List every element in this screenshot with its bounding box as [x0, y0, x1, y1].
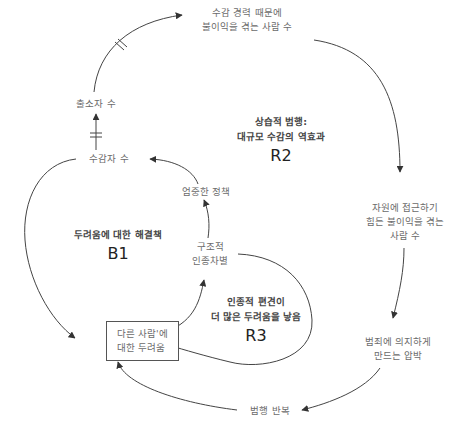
link-racism-to-policy: [204, 200, 209, 238]
loop-title: 대규모 수감의 역효과: [237, 129, 325, 144]
node-label: 사람 수: [366, 229, 444, 243]
node-label: 수감 경력 때문에: [202, 6, 292, 20]
link-released-to-disadvantaged: [94, 15, 182, 92]
loop-label-r2: 상습적 범행: 대규모 수감의 역효과 R2: [237, 114, 325, 167]
node-repeat-offense: 범행 반복: [250, 404, 289, 418]
loop-label-b1: 두려움에 대한 해결책 B1: [74, 227, 162, 265]
node-incarcerated-disadvantaged: 수감 경력 때문에 불이익을 겪는 사람 수: [202, 6, 292, 34]
node-label: 출소자 수: [76, 97, 115, 111]
link-incarcerated-to-fear: [25, 159, 76, 338]
node-label: 인종차별: [192, 254, 228, 268]
node-label: 불이익을 겪는 사람 수: [202, 20, 292, 34]
node-resource-access: 자원에 접근하기 힘든 불이익을 겪는 사람 수: [366, 201, 444, 243]
node-strict-policy: 엄중한 정책: [182, 185, 230, 199]
node-label: 수감자 수: [89, 152, 128, 166]
loop-code: R3: [211, 325, 302, 347]
link-policy-to-incarcerated: [150, 159, 198, 184]
node-label: 대한 두려움: [117, 341, 168, 355]
node-label: 범죄에 의지하게: [365, 335, 431, 349]
loop-title: 더 많은 두려움을 낳음: [211, 309, 302, 324]
link-pressure-to-repeat: [302, 368, 380, 410]
loop-title: 인종적 편견이: [211, 294, 302, 309]
node-released: 출소자 수: [76, 97, 115, 111]
node-label: 힘든 불이익을 겪는: [366, 215, 444, 229]
loop-code: B1: [74, 243, 162, 265]
node-label: 엄중한 정책: [182, 185, 230, 199]
node-structural-racism: 구조적 인종차별: [192, 240, 228, 268]
node-label: 다른 사람'에: [117, 327, 168, 341]
node-label: 자원에 접근하기: [366, 201, 444, 215]
node-label: 만드는 압박: [365, 349, 431, 363]
causal-loop-diagram: 수감 경력 때문에 불이익을 겪는 사람 수 출소자 수 수감자 수 엄중한 정…: [0, 0, 466, 443]
node-incarcerated: 수감자 수: [89, 152, 128, 166]
link-resource-to-pressure: [393, 248, 404, 318]
node-label: 범행 반복: [250, 404, 289, 418]
link-repeat-to-fear: [118, 362, 237, 410]
loop-title: 두려움에 대한 해결책: [74, 227, 162, 242]
loop-label-r3: 인종적 편견이 더 많은 두려움을 낳음 R3: [211, 294, 302, 347]
link-disadvantaged-to-resource: [314, 40, 400, 172]
node-crime-pressure: 범죄에 의지하게 만드는 압박: [365, 335, 431, 363]
node-label: 구조적: [192, 240, 228, 254]
node-fear-of-others: 다른 사람'에 대한 두려움: [106, 321, 179, 361]
loop-code: R2: [237, 145, 325, 167]
loop-title: 상습적 범행:: [237, 114, 325, 129]
